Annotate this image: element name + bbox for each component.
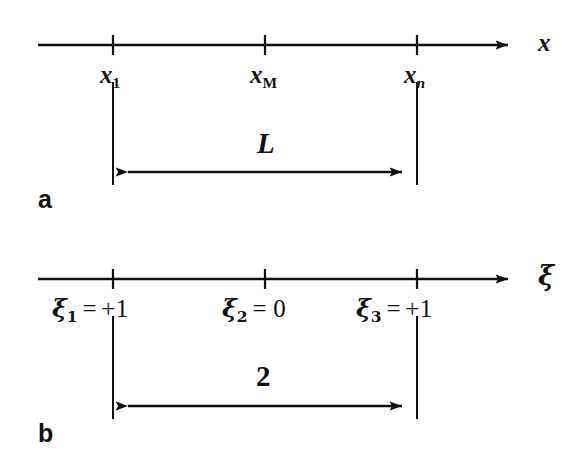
panel-letter-a: a xyxy=(38,187,52,212)
tick-label-xi3: ξ3=+1 xyxy=(356,296,433,321)
dimension-label-2: 2 xyxy=(256,362,271,391)
figure-canvas: x1 xM xn x L a ξ1=+1 ξ2=0 ξ3=+1 ξ 2 b xyxy=(0,0,578,461)
tick-label-xm: xM xyxy=(250,62,277,87)
tick-label-xi2: ξ2=0 xyxy=(222,296,286,321)
dimension-label-L: L xyxy=(257,129,275,158)
axis-label-xi: ξ xyxy=(538,262,554,289)
tick-label-x1: x1 xyxy=(100,62,120,87)
axis-label-x: x xyxy=(538,30,551,55)
panel-a-graphics xyxy=(38,35,508,185)
diagram-vector-layer xyxy=(0,0,578,461)
panel-letter-b: b xyxy=(38,421,53,446)
panel-b-graphics xyxy=(38,269,508,419)
tick-label-xn: xn xyxy=(404,62,425,87)
tick-label-xi1: ξ1=+1 xyxy=(52,296,129,321)
